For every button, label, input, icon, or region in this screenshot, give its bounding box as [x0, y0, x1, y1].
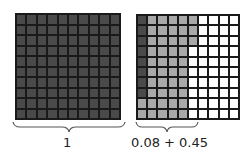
grid-cell: [137, 57, 147, 67]
grid-cell: [26, 67, 36, 78]
grid-cell: [219, 109, 229, 119]
grid-cell: [16, 46, 26, 57]
grid-cell: [78, 25, 88, 36]
grid-cell: [37, 46, 47, 57]
grid-cell: [168, 25, 178, 35]
grid-cell: [157, 15, 167, 25]
grid-cell: [198, 25, 208, 35]
grid-cell: [89, 88, 99, 99]
grid-cell: [147, 109, 157, 119]
grid-cell: [47, 14, 57, 25]
brace-right: [135, 121, 199, 133]
grid-cell: [198, 57, 208, 67]
grid-cell: [110, 77, 120, 88]
grid-cell: [208, 15, 218, 25]
grid-cell: [110, 46, 120, 57]
grid-cell: [89, 46, 99, 57]
grid-cell: [229, 109, 239, 119]
grid-cell: [26, 109, 36, 120]
grid-cell: [147, 15, 157, 25]
grid-cell: [137, 98, 147, 108]
grid-cell: [78, 67, 88, 78]
grid-cell: [68, 109, 78, 120]
grid-cell: [16, 14, 26, 25]
grid-cell: [137, 109, 147, 119]
grid-cell: [219, 77, 229, 87]
grid-cell: [157, 67, 167, 77]
grid-cell: [58, 98, 68, 109]
grid-cell: [137, 36, 147, 46]
grid-cell: [26, 25, 36, 36]
grid-cell: [229, 57, 239, 67]
grid-cell: [229, 25, 239, 35]
grid-cell: [110, 88, 120, 99]
grid-cell: [68, 88, 78, 99]
grid-cell: [47, 46, 57, 57]
grid-cell: [47, 25, 57, 36]
grid-cell: [147, 98, 157, 108]
grid-cell: [99, 35, 109, 46]
grid-cell: [99, 109, 109, 120]
grid-cell: [157, 46, 167, 56]
grid-cell: [16, 25, 26, 36]
grid-cell: [16, 35, 26, 46]
grid-cell: [47, 88, 57, 99]
grid-cell: [37, 109, 47, 120]
grid-cell: [37, 56, 47, 67]
grid-cell: [137, 77, 147, 87]
grid-cell: [16, 77, 26, 88]
grid-cell: [229, 98, 239, 108]
grid-cell: [198, 88, 208, 98]
grid-cell: [47, 77, 57, 88]
grid-cell: [178, 57, 188, 67]
grid-cell: [16, 67, 26, 78]
grid-cell: [198, 67, 208, 77]
grid-cell: [89, 77, 99, 88]
grid-cell: [208, 46, 218, 56]
grid-cell: [47, 109, 57, 120]
grid-cell: [147, 88, 157, 98]
grid-cell: [198, 77, 208, 87]
grid-cell: [198, 98, 208, 108]
grid-cell: [110, 56, 120, 67]
grid-cell: [229, 67, 239, 77]
grid-cell: [78, 88, 88, 99]
grid-cell: [157, 77, 167, 87]
grid-cell: [16, 98, 26, 109]
grid-cell: [208, 109, 218, 119]
grid-cell: [37, 25, 47, 36]
grid-cell: [188, 25, 198, 35]
grid-cell: [157, 88, 167, 98]
grid-cell: [188, 15, 198, 25]
grid-cell: [58, 88, 68, 99]
grid-cell: [68, 25, 78, 36]
grid-cell: [208, 67, 218, 77]
grid-cell: [78, 46, 88, 57]
grid-cell: [208, 25, 218, 35]
grid-cell: [47, 35, 57, 46]
grid-cell: [229, 15, 239, 25]
grid-cell: [178, 36, 188, 46]
grid-cell: [110, 109, 120, 120]
grid-cell: [89, 98, 99, 109]
grid-cell: [89, 56, 99, 67]
label-sum: 0.08 + 0.45: [131, 135, 208, 150]
grid-cell: [47, 98, 57, 109]
grid-cell: [229, 77, 239, 87]
grid-cell: [99, 98, 109, 109]
grid-cell: [78, 56, 88, 67]
grid-cell: [157, 98, 167, 108]
grid-cell: [89, 109, 99, 120]
grid-cell: [26, 88, 36, 99]
grid-cell: [178, 77, 188, 87]
grid-cell: [178, 25, 188, 35]
grid-cell: [147, 46, 157, 56]
grid-cell: [168, 98, 178, 108]
grid-cell: [198, 46, 208, 56]
grid-cell: [78, 77, 88, 88]
grid-cell: [168, 88, 178, 98]
grid-cell: [26, 14, 36, 25]
grid-cell: [26, 77, 36, 88]
grid-cell: [168, 57, 178, 67]
grid-cell: [37, 88, 47, 99]
